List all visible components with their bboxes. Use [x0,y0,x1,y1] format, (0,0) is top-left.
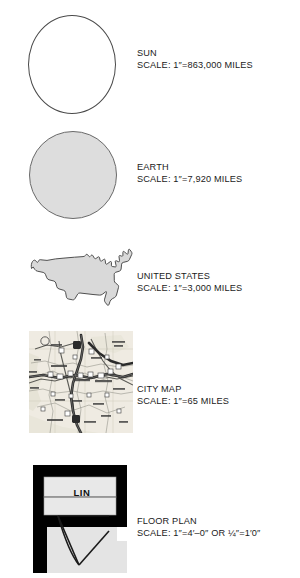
sun-scale: SCALE: 1″=863,000 MILES [137,59,253,71]
earth-circle-graphic [29,131,117,219]
usa-map-silhouette-graphic [24,240,134,312]
sun-title: SUN [137,47,253,59]
floor-plan-graphic [31,463,133,575]
united-states-title: UNITED STATES [137,270,242,282]
floor-plan-caption: FLOOR PLAN SCALE: 1″=4′–0″ OR ¼″=1′0″ [137,515,261,539]
city-map-thumbnail-graphic [29,331,133,433]
room-floor [47,527,127,573]
sun-caption: SUN SCALE: 1″=863,000 MILES [137,47,253,71]
city-map-scale: SCALE: 1″=65 MILES [137,395,229,407]
scale-comparison-figure: SUN SCALE: 1″=863,000 MILES EARTH SCALE:… [0,0,300,578]
floor-plan-title: FLOOR PLAN [137,515,261,527]
earth-caption: EARTH SCALE: 1″=7,920 MILES [137,161,242,185]
earth-scale: SCALE: 1″=7,920 MILES [137,173,242,185]
linen-closet-upper-shelf [44,477,116,497]
linen-closet-lower-shelf [44,497,116,515]
united-states-caption: UNITED STATES SCALE: 1″=3,000 MILES [137,270,242,294]
city-map-title: CITY MAP [137,383,229,395]
usa-outline-path [31,249,132,305]
sun-circle-graphic [28,15,116,114]
city-map-caption: CITY MAP SCALE: 1″=65 MILES [137,383,229,407]
floor-plan-scale: SCALE: 1″=4′–0″ OR ¼″=1′0″ [137,527,261,539]
wall-bottom-stub [33,563,45,573]
united-states-scale: SCALE: 1″=3,000 MILES [137,282,242,294]
earth-title: EARTH [137,161,242,173]
